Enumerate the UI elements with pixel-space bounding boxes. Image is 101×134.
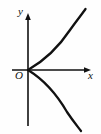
figure-background (0, 0, 101, 134)
parabola-diagram-canvas (0, 0, 101, 134)
x-axis-label: x (88, 70, 93, 81)
origin-label: O (15, 70, 23, 81)
parabola-figure: y x O (0, 0, 101, 134)
y-axis-label: y (18, 6, 23, 17)
